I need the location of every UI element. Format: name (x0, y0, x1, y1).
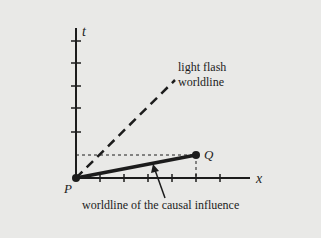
point-p-label: P (63, 181, 72, 196)
annotation-arrow (155, 170, 165, 198)
arrow-head-icon (151, 164, 159, 173)
t-axis-label: t (82, 24, 87, 39)
spacetime-diagram: t x P Q light flash worldline worldline … (0, 0, 321, 238)
light-label-line1: light flash (178, 60, 226, 74)
point-p (72, 174, 80, 182)
x-axis-label: x (255, 171, 263, 186)
point-q-label: Q (204, 147, 214, 162)
light-label-line2: worldline (178, 75, 224, 89)
point-q (192, 151, 200, 159)
causal-worldline (76, 155, 196, 178)
causal-label: worldline of the causal influence (82, 198, 239, 212)
